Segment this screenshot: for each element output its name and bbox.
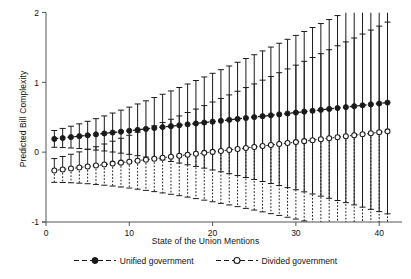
data-point-divided [260,144,265,149]
data-point-divided [360,132,365,137]
data-point-divided [193,151,198,156]
data-point-divided [210,149,215,154]
legend-label-unified: Unified government [120,256,194,266]
y-tick-label: 0 [34,147,39,157]
legend-label-divided: Divided government [262,256,338,266]
data-point-unified [93,132,98,137]
legend-marker-filled-circle-icon [74,255,116,266]
data-point-divided [368,131,373,136]
data-point-divided [135,158,140,163]
data-point-divided [152,156,157,161]
y-tick-label: 2 [34,8,39,18]
data-point-unified [102,131,107,136]
data-point-divided [68,166,73,171]
x-axis-label: State of the Union Mentions [0,236,411,246]
data-point-divided [168,154,173,159]
data-point-divided [277,142,282,147]
legend-item-divided: Divided government [216,255,338,266]
data-point-divided [385,129,390,134]
data-point-unified [118,129,123,134]
data-point-divided [235,146,240,151]
data-point-divided [160,155,165,160]
data-point-divided [60,167,65,172]
data-point-divided [185,152,190,157]
data-point-divided [243,145,248,150]
data-point-divided [218,148,223,153]
chart-legend: Unified government Divided government [0,255,411,266]
data-point-unified [127,128,132,133]
data-point-divided [318,137,323,142]
data-point-divided [327,136,332,141]
data-point-divided [77,165,82,170]
data-point-unified [52,136,57,141]
data-point-divided [127,159,132,164]
data-point-unified [110,130,115,135]
data-point-unified [60,135,65,140]
data-point-divided [352,133,357,138]
data-point-divided [268,143,273,148]
data-point-divided [143,157,148,162]
data-point-unified [135,127,140,132]
data-point-divided [335,135,340,140]
chart-container: -1012010203040 Predicted Bill Complexity… [0,0,411,279]
data-point-divided [177,153,182,158]
data-point-divided [285,141,290,146]
data-point-divided [110,161,115,166]
data-point-divided [118,160,123,165]
legend-marker-open-circle-icon [216,255,258,266]
y-tick-label: 1 [34,78,39,88]
data-point-unified [68,134,73,139]
data-point-divided [377,130,382,135]
data-point-unified [77,134,82,139]
data-point-unified [85,133,90,138]
data-point-divided [310,138,315,143]
data-point-divided [302,139,307,144]
data-point-divided [293,140,298,145]
legend-item-unified: Unified government [74,255,194,266]
data-point-divided [202,150,207,155]
y-axis-label: Predicted Bill Complexity [18,44,28,194]
data-point-divided [252,144,257,149]
data-point-divided [227,147,232,152]
data-point-divided [52,168,57,173]
data-point-divided [85,164,90,169]
data-point-divided [93,163,98,168]
data-point-divided [343,134,348,139]
y-tick-label: -1 [31,217,39,227]
data-point-divided [102,162,107,167]
